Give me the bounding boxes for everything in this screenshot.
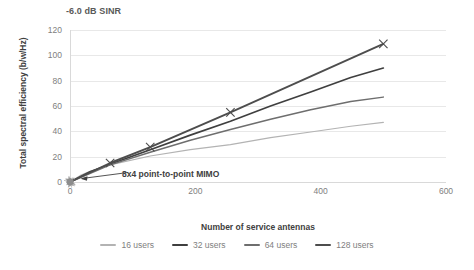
legend-swatch-icon bbox=[244, 244, 260, 246]
series-marker bbox=[379, 40, 387, 48]
legend-label: 128 users bbox=[336, 240, 373, 250]
chart-container: -6.0 dB SINR Total spectral efficiency (… bbox=[0, 0, 474, 270]
legend-swatch-icon bbox=[100, 244, 116, 245]
chart-legend: 16 users32 users64 users128 users bbox=[0, 240, 474, 250]
x-axis-title: Number of service antennas bbox=[70, 222, 446, 232]
legend-label: 32 users bbox=[193, 240, 226, 250]
legend-swatch-icon bbox=[172, 244, 188, 246]
origin-cluster-marker bbox=[64, 176, 75, 188]
legend-item-128-users[interactable]: 128 users bbox=[315, 240, 373, 250]
series-marker bbox=[226, 108, 234, 116]
series-line-128-users bbox=[70, 44, 383, 182]
legend-label: 64 users bbox=[265, 240, 298, 250]
annotation-mimo: 8x4 point-to-point MIMO bbox=[122, 169, 219, 179]
legend-item-16-users[interactable]: 16 users bbox=[100, 240, 154, 250]
series-line-64-users bbox=[70, 97, 383, 182]
legend-item-64-users[interactable]: 64 users bbox=[244, 240, 298, 250]
legend-item-32-users[interactable]: 32 users bbox=[172, 240, 226, 250]
legend-swatch-icon bbox=[315, 244, 331, 246]
series-line-32-users bbox=[70, 68, 383, 182]
legend-label: 16 users bbox=[121, 240, 154, 250]
series-line-16-users bbox=[70, 122, 383, 182]
